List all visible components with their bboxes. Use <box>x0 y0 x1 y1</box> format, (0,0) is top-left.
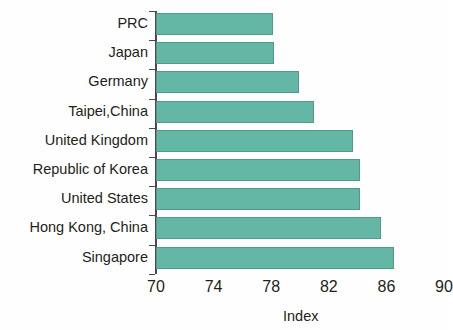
x-tick-label: 86 <box>377 278 395 296</box>
x-tick-label: 78 <box>262 278 280 296</box>
bar-rect <box>156 71 299 93</box>
category-label: Taipei,China <box>0 100 148 122</box>
x-tick-label: 74 <box>205 278 223 296</box>
category-label: United States <box>0 187 148 209</box>
category-label: Hong Kong, China <box>0 216 148 238</box>
y-tick-mark <box>149 245 155 246</box>
category-label: Japan <box>0 41 148 63</box>
bar-rect <box>156 217 381 239</box>
y-tick-mark <box>149 186 155 187</box>
y-tick-mark <box>149 11 155 12</box>
bar-rect <box>156 159 360 181</box>
y-tick-mark <box>149 215 155 216</box>
category-label: Singapore <box>0 246 148 268</box>
category-label: United Kingdom <box>0 129 148 151</box>
y-tick-mark <box>149 128 155 129</box>
bar-rect <box>156 130 353 152</box>
y-tick-mark <box>149 157 155 158</box>
bar-rect <box>156 188 360 210</box>
x-tick-label: 90 <box>435 278 453 296</box>
category-label: Germany <box>0 70 148 92</box>
x-axis-title: Index <box>283 308 318 324</box>
bar-rect <box>156 13 273 35</box>
bar-rect <box>156 247 394 269</box>
bar-rect <box>156 42 274 64</box>
y-tick-mark <box>149 274 155 275</box>
x-tick-label: 70 <box>147 278 165 296</box>
y-tick-mark <box>149 69 155 70</box>
y-tick-mark <box>149 40 155 41</box>
bar-rect <box>156 101 314 123</box>
category-label: PRC <box>0 12 148 34</box>
y-tick-mark <box>149 99 155 100</box>
x-tick-label: 82 <box>320 278 338 296</box>
category-label: Republic of Korea <box>0 158 148 180</box>
